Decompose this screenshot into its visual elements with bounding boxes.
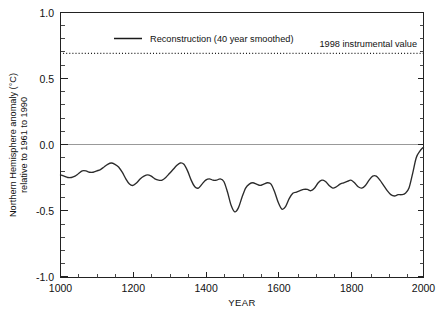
- x-tick-label-3: 1400: [194, 282, 218, 294]
- x-tick-label-6: 2000: [412, 282, 436, 294]
- x-axis-title: YEAR: [228, 297, 255, 308]
- temperature-anomaly-chart: 1.0 0.5 0.0 -0.5 -1.0 1000 1200 1400 160…: [0, 0, 446, 313]
- y-tick-label-3: 0.0: [39, 139, 54, 151]
- y-tick-label-5: -1.0: [36, 271, 54, 283]
- x-tick-label-4: 1600: [267, 282, 291, 294]
- y-tick-label-2: 0.5: [39, 73, 54, 85]
- chart-figure: 1.0 0.5 0.0 -0.5 -1.0 1000 1200 1400 160…: [0, 0, 446, 313]
- x-tick-label-2: 1200: [122, 282, 146, 294]
- x-tick-label-5: 1800: [340, 282, 364, 294]
- y-tick-label-1: 1.0: [39, 7, 54, 19]
- y-axis-title-line1: Northern Hemisphere anomaly (°C): [8, 73, 18, 217]
- annotation-1998-instrumental: 1998 instrumental value: [319, 39, 417, 49]
- legend-label-reconstruction: Reconstruction (40 year smoothed): [150, 34, 294, 44]
- y-tick-label-4: -0.5: [36, 205, 54, 217]
- y-axis-title-line2: relative to 1961 to 1990: [19, 97, 29, 193]
- x-tick-label-1: 1000: [49, 282, 73, 294]
